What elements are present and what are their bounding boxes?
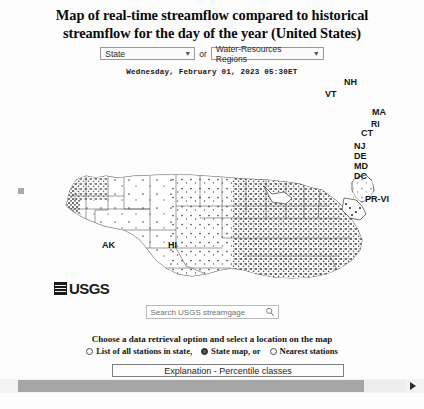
radio-button-list-of-stations[interactable] — [86, 348, 93, 355]
render-artifact — [18, 188, 24, 194]
map-label-pr-vi: PR-VI — [365, 195, 389, 204]
search-input[interactable]: Search USGS streamgage — [146, 305, 279, 319]
map-label-ct: CT — [361, 129, 373, 138]
radio-option-state-map[interactable]: State map, or — [201, 346, 260, 356]
horizontal-scrollbar[interactable] — [0, 379, 424, 393]
region-selector-row: State ▼ or Water-Resources Regions ▼ — [0, 47, 424, 60]
streamflow-map[interactable]: NH VT MA RI CT NJ DE MD DC PR-VI AK HI — [0, 78, 424, 283]
map-label-vt: VT — [325, 90, 337, 99]
scrollbar-thumb[interactable] — [18, 380, 364, 392]
page-title: Map of real-time streamflow compared to … — [0, 0, 424, 42]
usgs-hatched-square-icon — [54, 282, 67, 295]
map-label-ak: AK — [102, 241, 115, 250]
map-label-de: DE — [354, 152, 367, 161]
page-title-line-2: streamflow for the day of the year (Unit… — [0, 24, 424, 42]
explanation-button-label: Explanation - Percentile classes — [164, 366, 292, 376]
map-label-hi: HI — [168, 241, 177, 250]
chevron-right-icon[interactable] — [410, 382, 416, 390]
map-label-nh: NH — [344, 78, 357, 87]
map-label-ma: MA — [372, 108, 386, 117]
page-root: Map of real-time streamflow compared to … — [0, 0, 424, 409]
state-select-value: State — [105, 49, 125, 59]
chevron-down-icon: ▼ — [184, 50, 191, 57]
search-row: Search USGS streamgage — [0, 305, 424, 319]
or-label: or — [199, 49, 207, 59]
map-label-md: MD — [354, 162, 368, 171]
chevron-down-icon: ▼ — [313, 50, 320, 57]
radio-option-list-of-stations[interactable]: List of all stations in state, — [86, 346, 192, 356]
radio-button-nearest-stations[interactable] — [270, 348, 277, 355]
retrieval-options: Choose a data retrieval option and selec… — [0, 333, 424, 356]
usgs-logo-text: USGS — [69, 281, 109, 296]
map-timestamp: Wednesday, February 01, 2023 05:30ET — [0, 68, 424, 76]
water-resources-regions-select[interactable]: Water-Resources Regions ▼ — [211, 47, 324, 60]
search-placeholder: Search USGS streamgage — [151, 308, 265, 317]
explanation-button[interactable]: Explanation - Percentile classes — [112, 364, 344, 377]
radio-label-list-of-stations: List of all stations in state, — [96, 346, 192, 356]
radio-option-nearest-stations[interactable]: Nearest stations — [270, 346, 338, 356]
page-title-line-1: Map of real-time streamflow compared to … — [0, 6, 424, 24]
state-select[interactable]: State ▼ — [100, 47, 195, 60]
retrieval-heading: Choose a data retrieval option and selec… — [0, 333, 424, 345]
retrieval-radio-row: List of all stations in state, State map… — [0, 346, 424, 356]
radio-button-state-map[interactable] — [201, 348, 208, 355]
radio-label-state-map: State map, or — [211, 346, 260, 356]
map-label-nj: NJ — [354, 142, 366, 151]
usgs-logo: USGS — [54, 281, 109, 296]
streamgage-density-fill — [60, 168, 370, 283]
magnifier-icon[interactable] — [265, 307, 275, 317]
radio-label-nearest-stations: Nearest stations — [280, 346, 338, 356]
region-select-value: Water-Resources Regions — [216, 44, 309, 64]
map-label-dc: DC — [354, 172, 367, 181]
